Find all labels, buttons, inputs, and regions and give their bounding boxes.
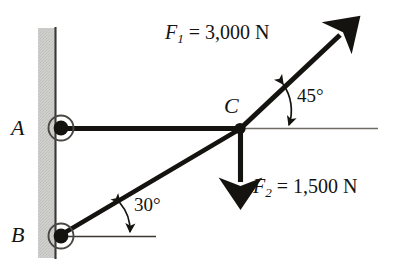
force-f2-symbol: F bbox=[253, 175, 265, 197]
wall bbox=[38, 27, 56, 259]
force-f2-value: 1,500 N bbox=[293, 175, 357, 197]
pin-a-dot bbox=[54, 121, 69, 136]
label-point-b: B bbox=[11, 224, 24, 246]
angle-arc-30 bbox=[120, 203, 130, 232]
label-force-f2: F2 = 1,500 N bbox=[253, 176, 358, 196]
label-angle-30: 30° bbox=[134, 195, 161, 214]
force-f1-subscript: 1 bbox=[177, 31, 184, 46]
wall-hatch-fill bbox=[38, 28, 55, 258]
force-f2-subscript: 2 bbox=[265, 185, 272, 200]
force-f2-equals: = bbox=[277, 175, 288, 197]
free-body-diagram: A B C 45° 30° F1 = 3,000 N F2 = 1,500 N bbox=[0, 0, 396, 275]
force-f1-value: 3,000 N bbox=[205, 21, 269, 43]
member-bc bbox=[59, 129, 240, 236]
label-force-f1: F1 = 3,000 N bbox=[165, 22, 270, 42]
label-point-a: A bbox=[11, 117, 24, 139]
pin-b-dot bbox=[54, 229, 69, 244]
force-f1-symbol: F bbox=[165, 21, 177, 43]
force-f1-equals: = bbox=[189, 21, 200, 43]
label-angle-45: 45° bbox=[297, 86, 324, 105]
label-point-c: C bbox=[224, 95, 239, 117]
